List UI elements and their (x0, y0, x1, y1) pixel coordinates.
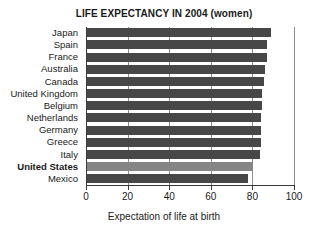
plot-area (86, 27, 294, 185)
chart-title: LIFE EXPECTANCY IN 2004 (women) (0, 8, 328, 19)
category-label: United Kingdom (0, 88, 82, 100)
bar (87, 150, 260, 159)
bar-row (86, 124, 294, 136)
bar (87, 40, 267, 49)
x-tick-label: 20 (113, 191, 143, 203)
x-tick-mark (294, 185, 295, 190)
x-tick-label: 60 (196, 191, 226, 203)
bar (87, 28, 271, 37)
category-label: Belgium (0, 100, 82, 112)
x-tick-mark (86, 185, 87, 190)
bar-row (86, 149, 294, 161)
x-tick-mark (211, 185, 212, 190)
x-axis-title: Expectation of life at birth (0, 211, 328, 222)
x-tick-label: 40 (154, 191, 184, 203)
x-tick-label: 0 (71, 191, 101, 203)
x-tick-mark (169, 185, 170, 190)
bar-row (86, 136, 294, 148)
category-label: Spain (0, 39, 82, 51)
bar (87, 53, 267, 62)
category-label: Netherlands (0, 112, 82, 124)
bar-row (86, 100, 294, 112)
category-label: France (0, 51, 82, 63)
bar (87, 101, 262, 110)
bar (87, 113, 261, 122)
bar-row (86, 63, 294, 75)
bar (87, 162, 253, 171)
bar (87, 126, 261, 135)
category-label: United States (0, 161, 82, 173)
x-tick-mark (252, 185, 253, 190)
bar (87, 174, 248, 183)
category-axis-labels: JapanSpainFranceAustraliaCanadaUnited Ki… (0, 27, 82, 185)
category-label: Mexico (0, 173, 82, 185)
x-tick-label: 100 (279, 191, 309, 203)
category-label: Italy (0, 149, 82, 161)
bar-row (86, 112, 294, 124)
x-tick-label: 80 (237, 191, 267, 203)
bar-row (86, 161, 294, 173)
category-label: Germany (0, 124, 82, 136)
bar (87, 77, 264, 86)
category-label: Japan (0, 27, 82, 39)
x-axis-line (86, 185, 294, 186)
category-label: Greece (0, 136, 82, 148)
bar-row (86, 27, 294, 39)
bar (87, 65, 265, 74)
x-tick-mark (128, 185, 129, 190)
category-label: Canada (0, 76, 82, 88)
bar (87, 138, 261, 147)
category-label: Australia (0, 63, 82, 75)
bar-row (86, 173, 294, 185)
bar-row (86, 88, 294, 100)
bar-row (86, 51, 294, 63)
bar-row (86, 76, 294, 88)
bar-row (86, 39, 294, 51)
bar (87, 89, 262, 98)
gridline (294, 27, 295, 185)
bar-chart: LIFE EXPECTANCY IN 2004 (women) JapanSpa… (0, 0, 328, 245)
